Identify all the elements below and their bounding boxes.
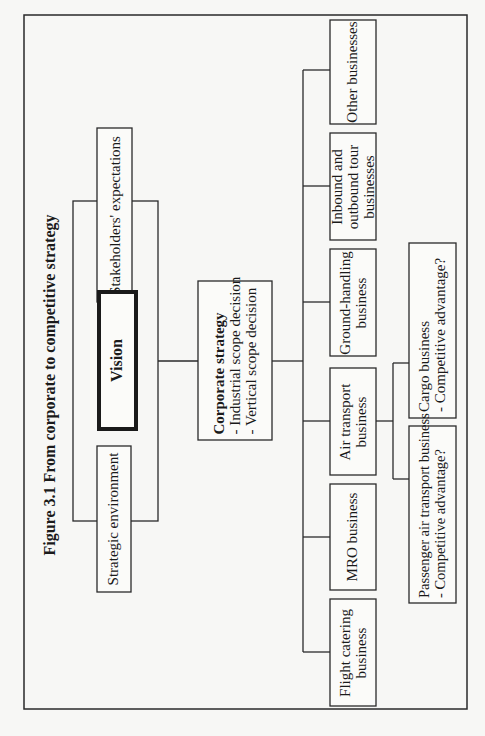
sub-business-text: Passenger air transport business — [417, 413, 432, 598]
business-label-other: Other businesses — [330, 20, 376, 124]
sub-business-text: Cargo business — [417, 321, 433, 412]
business-label-catering: Flight catering business — [330, 599, 376, 706]
figure-title-text: Figure 3.1 From corporate to competitive… — [42, 214, 59, 555]
sub-business-text: - Competitive advantage? — [433, 449, 448, 598]
vision-text: Vision — [109, 339, 126, 382]
business-label-mro: MRO business — [330, 484, 376, 590]
business-text: Inbound and — [329, 149, 345, 224]
corporate-strategy-title: Corporate strategy — [211, 312, 227, 434]
business-label-inbound: Inbound and outbound tour businesses — [330, 133, 376, 240]
business-text: businesses — [361, 155, 377, 218]
corporate-item-industrial: - Industrial scope decision — [227, 276, 243, 434]
corporate-item-vertical: - Vertical scope decision — [243, 287, 259, 434]
strategic-environment-label: Strategic environment — [97, 446, 131, 592]
strategic-environment-text: Strategic environment — [106, 453, 122, 586]
vision-label: Vision — [99, 292, 136, 429]
figure-canvas: Figure 3.1 From corporate to competitive… — [0, 0, 485, 736]
business-text: Flight catering — [337, 609, 353, 697]
business-text: Air transport — [337, 383, 353, 460]
business-text: business — [353, 627, 369, 678]
figure-title: Figure 3.1 From corporate to competitive… — [38, 210, 62, 560]
stakeholders-label: Stakeholders' expectations — [97, 128, 132, 302]
stakeholders-text: Stakeholders' expectations — [107, 136, 123, 295]
sub-business-label-cargo: Cargo business - Competitive advantage? — [409, 243, 456, 418]
business-text: MRO business — [345, 493, 361, 582]
business-text: outbound tour — [345, 144, 361, 229]
sub-business-label-passenger: Passenger air transport business - Compe… — [409, 426, 456, 603]
business-text: business — [353, 396, 369, 447]
business-text: Other businesses — [345, 21, 361, 122]
corporate-strategy-label: Corporate strategy - Industrial scope de… — [198, 281, 272, 440]
sub-business-text: - Competitive advantage? — [433, 258, 449, 412]
business-text: business — [353, 277, 369, 328]
business-label-ground: Ground-handling business — [330, 249, 376, 356]
business-label-air: Air transport business — [330, 368, 376, 475]
business-text: Ground-handling — [337, 251, 353, 354]
